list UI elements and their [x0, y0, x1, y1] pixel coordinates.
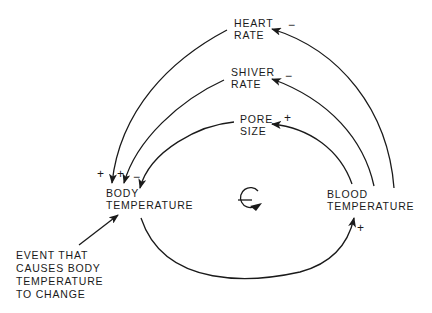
shiver-rate-line2: RATE [231, 78, 275, 90]
node-blood-temperature: BLOOD TEMPERATURE [327, 188, 414, 212]
loop-polarity-circle [241, 188, 258, 208]
sign-blood-from-body: + [357, 222, 364, 234]
blood-temperature-line2: TEMPERATURE [327, 200, 414, 212]
body-temperature-line2: TEMPERATURE [106, 199, 193, 211]
arrow-shiver-to-body [124, 80, 224, 183]
node-pore-size: PORE SIZE [240, 113, 273, 137]
event-line3: TEMPERATURE [16, 275, 103, 288]
shiver-rate-line1: SHIVER [231, 66, 275, 78]
sign-body-from-heart: + [97, 168, 104, 180]
arrow-event-to-body [79, 215, 118, 245]
arrow-body-to-blood [141, 218, 354, 278]
node-body-temperature: BODY TEMPERATURE [106, 187, 193, 211]
heart-rate-line1: HEART [234, 17, 273, 29]
arrow-blood-to-heart [272, 29, 394, 188]
arrow-blood-to-pore [272, 124, 352, 184]
blood-temperature-line1: BLOOD [327, 188, 414, 200]
heart-rate-line2: RATE [234, 29, 273, 41]
arrow-heart-to-body [112, 30, 227, 183]
node-event: EVENT THAT CAUSES BODY TEMPERATURE TO CH… [16, 249, 103, 301]
event-line2: CAUSES BODY [16, 262, 103, 275]
event-line4: TO CHANGE [16, 288, 103, 301]
event-line1: EVENT THAT [16, 249, 103, 262]
sign-body-from-pore: − [133, 171, 140, 183]
arrow-blood-to-shiver [272, 79, 374, 186]
sign-shiver-rate: − [285, 70, 292, 82]
sign-body-from-shiver: + [117, 168, 124, 180]
sign-pore-size: + [284, 112, 291, 124]
node-heart-rate: HEART RATE [234, 17, 273, 41]
body-temperature-line1: BODY [106, 187, 193, 199]
node-shiver-rate: SHIVER RATE [231, 66, 275, 90]
sign-heart-rate: − [288, 19, 295, 31]
loop-polarity-arrowhead [250, 203, 262, 211]
pore-size-line1: PORE [240, 113, 273, 125]
pore-size-line2: SIZE [240, 125, 273, 137]
